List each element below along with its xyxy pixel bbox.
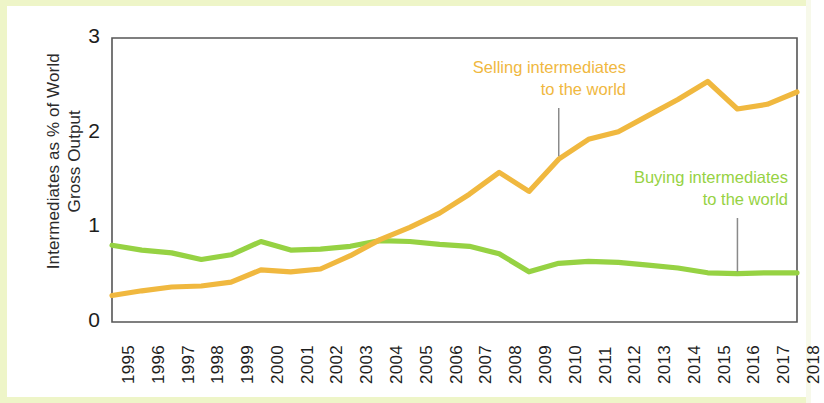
x-tick-2006: 2006: [447, 345, 467, 384]
x-tick-2011: 2011: [596, 346, 616, 384]
annotation-selling: Selling intermediates to the world: [386, 56, 626, 101]
x-tick-2000: 2000: [268, 345, 288, 384]
x-tick-2018: 2018: [804, 345, 824, 384]
x-tick-2007: 2007: [476, 345, 496, 384]
annotation-buying: Buying intermediates to the world: [570, 166, 788, 211]
x-tick-1995: 1995: [119, 345, 139, 384]
x-tick-2013: 2013: [655, 345, 675, 384]
series-line-buying: [112, 241, 797, 274]
x-tick-2005: 2005: [417, 345, 437, 384]
y-tick-3: 3: [74, 24, 100, 48]
x-tick-2002: 2002: [327, 345, 347, 384]
x-tick-1996: 1996: [149, 345, 169, 384]
x-tick-2008: 2008: [506, 345, 526, 384]
y-tick-0: 0: [74, 308, 100, 332]
x-tick-2004: 2004: [387, 345, 407, 384]
x-tick-2012: 2012: [625, 345, 645, 384]
y-tick-2: 2: [74, 119, 100, 143]
x-tick-1998: 1998: [208, 345, 228, 384]
x-tick-2009: 2009: [536, 345, 556, 384]
x-tick-1999: 1999: [238, 345, 258, 384]
x-tick-2010: 2010: [566, 345, 586, 384]
x-tick-2015: 2015: [715, 345, 735, 384]
x-tick-2003: 2003: [357, 345, 377, 384]
x-tick-2017: 2017: [774, 345, 794, 384]
x-tick-2016: 2016: [744, 345, 764, 384]
x-tick-2001: 2001: [298, 345, 318, 384]
y-tick-1: 1: [74, 213, 100, 237]
x-tick-2014: 2014: [685, 345, 705, 384]
x-tick-1997: 1997: [179, 345, 199, 384]
